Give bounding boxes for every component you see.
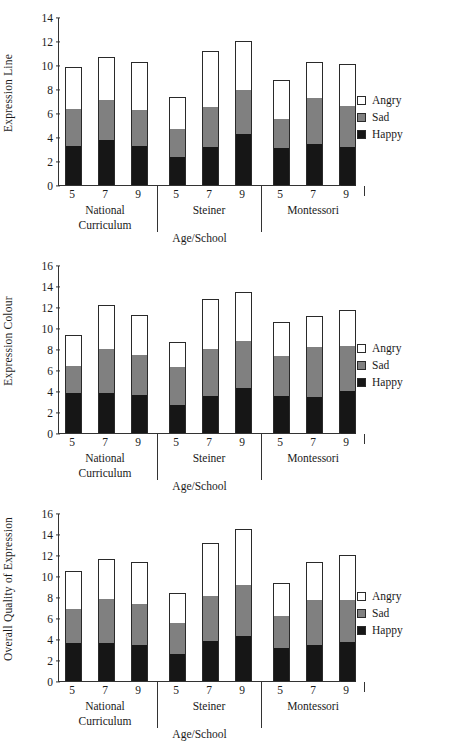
stacked-bar[interactable] — [339, 555, 356, 682]
stacked-bar[interactable] — [235, 292, 252, 434]
legend-item[interactable]: Happy — [357, 622, 403, 638]
legend-item[interactable]: Happy — [357, 374, 403, 390]
legend-swatch-happy — [357, 626, 366, 635]
stacked-bar[interactable] — [98, 57, 115, 186]
stacked-bar[interactable] — [98, 559, 115, 682]
y-axis-tick-label: 10 — [42, 323, 60, 335]
x-axis-tick-label: 7 — [310, 684, 316, 696]
y-axis-tick-label: 4 — [47, 386, 59, 398]
bar-segment-angry — [235, 292, 252, 340]
plot-area: 02468101214 — [58, 18, 338, 186]
bar-segment-angry — [131, 562, 148, 605]
x-axis-tick-label: 9 — [135, 684, 141, 696]
bar-group-container — [59, 514, 338, 682]
stacked-bar[interactable] — [65, 335, 82, 434]
stacked-bar[interactable] — [235, 41, 252, 186]
stacked-bar[interactable] — [202, 543, 219, 682]
bar-group-container — [59, 266, 338, 434]
bar-segment-sad — [169, 367, 186, 405]
stacked-bar[interactable] — [169, 342, 186, 434]
group-label-line: National — [78, 699, 131, 714]
bar-segment-sad — [131, 355, 148, 395]
bar-segment-angry — [273, 322, 290, 357]
y-axis-tick-label: 8 — [47, 84, 59, 96]
group-separator — [157, 434, 158, 480]
stacked-bar[interactable] — [65, 571, 82, 682]
y-axis-tick-label: 14 — [42, 281, 60, 293]
stacked-bar[interactable] — [131, 62, 148, 186]
bar-segment-happy — [98, 140, 115, 186]
legend-label: Angry — [372, 342, 401, 354]
legend-item[interactable]: Sad — [357, 605, 403, 621]
bar-segment-angry — [339, 64, 356, 105]
bar-segment-sad — [339, 106, 356, 147]
stacked-bar[interactable] — [339, 310, 356, 434]
bar-segment-sad — [306, 347, 323, 397]
y-axis-tick-label: 12 — [42, 36, 60, 48]
bar-segment-sad — [273, 356, 290, 395]
bar-segment-happy — [202, 641, 219, 682]
bar-segment-sad — [339, 600, 356, 642]
stacked-bar[interactable] — [306, 316, 323, 434]
legend-item[interactable]: Sad — [357, 357, 403, 373]
stacked-bar[interactable] — [98, 305, 115, 434]
stacked-bar[interactable] — [306, 562, 323, 682]
y-axis-title: Overall Quality of Expression — [0, 496, 16, 681]
group-label-line: Curriculum — [78, 466, 131, 481]
bar-segment-angry — [306, 562, 323, 600]
y-axis-tick-label: 16 — [42, 260, 60, 272]
stacked-bar[interactable] — [202, 51, 219, 186]
x-axis-group-label: Steiner — [193, 451, 226, 466]
x-axis-tick-label: 9 — [239, 684, 245, 696]
bar-segment-angry — [169, 97, 186, 129]
stacked-bar[interactable] — [273, 322, 290, 434]
x-axis-group-label: Montessori — [287, 203, 339, 218]
bar-segment-happy — [306, 645, 323, 682]
legend-item[interactable]: Angry — [357, 340, 403, 356]
bar-segment-sad — [202, 349, 219, 396]
legend-item[interactable]: Angry — [357, 92, 403, 108]
stacked-bar[interactable] — [273, 80, 290, 186]
x-axis-tick-label: 5 — [173, 684, 179, 696]
legend-swatch-angry — [357, 344, 366, 353]
bar-segment-angry — [98, 57, 115, 100]
y-axis-title: Expression Line — [0, 0, 16, 185]
x-axis-tick-label: 9 — [239, 188, 245, 200]
bar-segment-angry — [98, 305, 115, 349]
stacked-bar[interactable] — [202, 299, 219, 434]
legend-swatch-happy — [357, 378, 366, 387]
bar-segment-sad — [202, 596, 219, 641]
bar-segment-sad — [273, 616, 290, 648]
legend-item[interactable]: Angry — [357, 588, 403, 604]
stacked-bar[interactable] — [65, 67, 82, 186]
stacked-bar[interactable] — [169, 97, 186, 186]
stacked-bar[interactable] — [273, 583, 290, 682]
bar-segment-happy — [273, 648, 290, 682]
bar-segment-happy — [273, 148, 290, 186]
x-axis-tick-label: 7 — [102, 684, 108, 696]
bar-segment-happy — [169, 654, 186, 682]
bar-segment-angry — [65, 571, 82, 608]
stacked-bar[interactable] — [235, 529, 252, 682]
legend-label: Happy — [372, 624, 403, 636]
stacked-bar[interactable] — [306, 62, 323, 186]
stacked-bar[interactable] — [169, 593, 186, 682]
stacked-bar[interactable] — [131, 315, 148, 434]
y-axis-title-text: Overall Quality of Expression — [2, 516, 14, 660]
bar-segment-angry — [306, 316, 323, 346]
plot-area: 0246810121416 — [58, 266, 338, 434]
legend-item[interactable]: Sad — [357, 109, 403, 125]
x-axis-tick-label: 5 — [69, 188, 75, 200]
y-axis-tick-label: 2 — [47, 655, 59, 667]
y-axis-tick-label: 16 — [42, 508, 60, 520]
y-axis-tick-label: 6 — [47, 613, 59, 625]
y-axis-tick-label: 8 — [47, 344, 59, 356]
bar-segment-sad — [202, 107, 219, 147]
legend-item[interactable]: Happy — [357, 126, 403, 142]
y-axis-tick-label: 2 — [47, 156, 59, 168]
stacked-bar[interactable] — [339, 64, 356, 186]
bar-segment-angry — [273, 583, 290, 616]
x-axis-tick-label: 9 — [343, 436, 349, 448]
stacked-bar[interactable] — [131, 562, 148, 682]
legend-label: Sad — [372, 607, 389, 619]
